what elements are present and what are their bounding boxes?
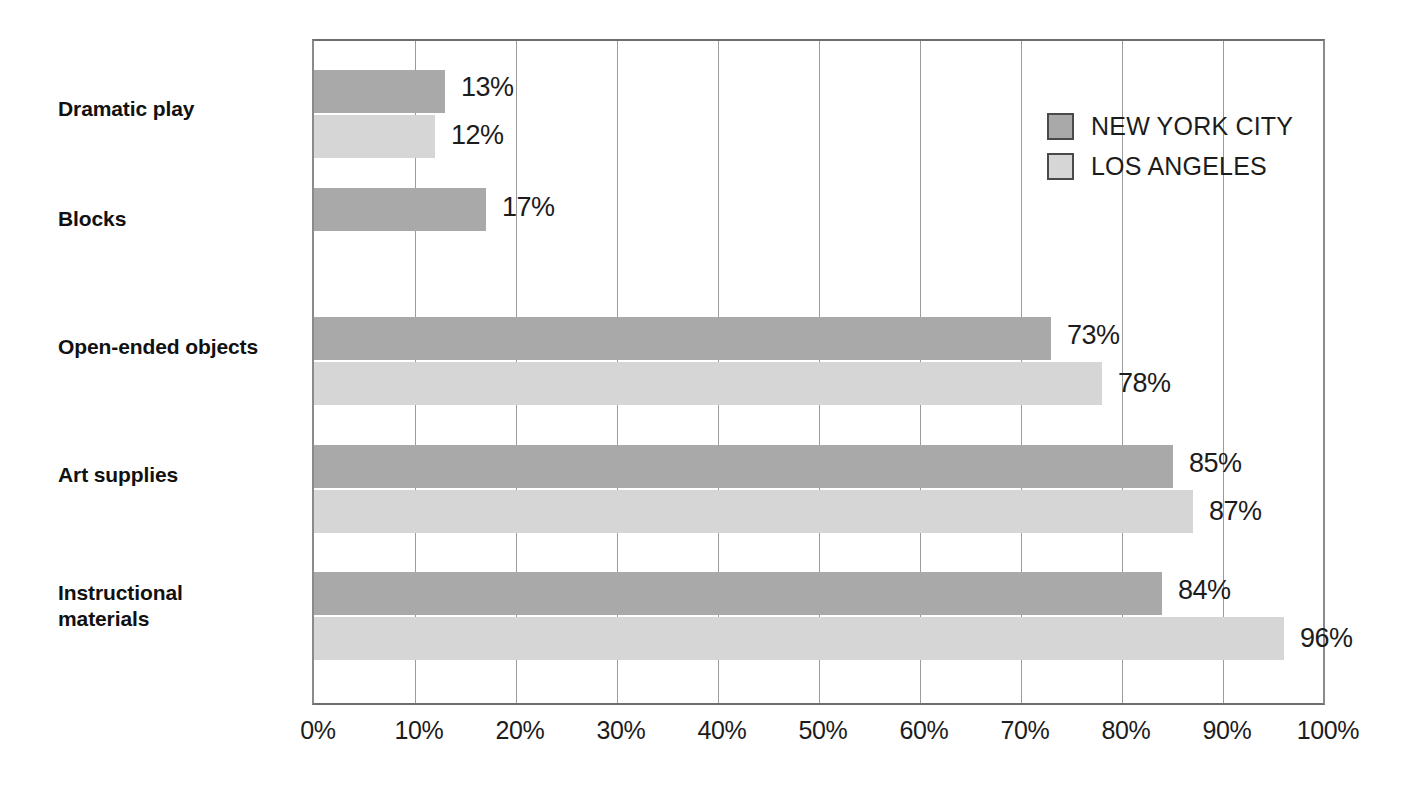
xtick-label-80: 80% <box>1102 716 1151 745</box>
xtick-label-20: 20% <box>496 716 545 745</box>
bar-dramatic-play-new-york-city <box>314 70 445 113</box>
category-label-line: Open-ended objects <box>58 334 308 360</box>
bar-chart: Dramatic play Blocks Open-ended objects … <box>0 0 1415 789</box>
category-label-open-ended-objects: Open-ended objects <box>58 334 308 360</box>
bar-art-supplies-los-angeles <box>314 490 1193 533</box>
xtick-label-50: 50% <box>799 716 848 745</box>
category-label-line: Instructional <box>58 580 308 606</box>
category-label-line: Dramatic play <box>58 96 308 122</box>
bar-open-ended-objects-new-york-city <box>314 317 1051 360</box>
legend-swatch-icon-new-york-city <box>1047 113 1074 140</box>
category-label-dramatic-play: Dramatic play <box>58 96 308 122</box>
legend-label-new-york-city: NEW YORK CITY <box>1091 112 1293 141</box>
bar-instructional-materials-los-angeles <box>314 617 1284 660</box>
xtick-label-10: 10% <box>395 716 444 745</box>
value-label-dramatic-play-los-angeles: 12% <box>451 120 504 151</box>
value-label-instructional-materials-new-york-city: 84% <box>1178 575 1231 606</box>
category-label-line: Art supplies <box>58 462 308 488</box>
xtick-label-90: 90% <box>1203 716 1252 745</box>
legend-swatch-icon-los-angeles <box>1047 153 1074 180</box>
value-label-instructional-materials-los-angeles: 96% <box>1300 623 1353 654</box>
xtick-label-100: 100% <box>1297 716 1359 745</box>
xtick-label-0: 0% <box>300 716 335 745</box>
xtick-label-70: 70% <box>1001 716 1050 745</box>
category-label-line: materials <box>58 606 308 632</box>
value-label-art-supplies-los-angeles: 87% <box>1209 496 1262 527</box>
value-label-open-ended-objects-new-york-city: 73% <box>1067 320 1120 351</box>
category-label-blocks: Blocks <box>58 206 308 232</box>
value-label-dramatic-play-new-york-city: 13% <box>461 72 514 103</box>
value-label-art-supplies-new-york-city: 85% <box>1189 448 1242 479</box>
xtick-label-30: 30% <box>597 716 646 745</box>
bar-instructional-materials-new-york-city <box>314 572 1162 615</box>
xtick-label-40: 40% <box>698 716 747 745</box>
bar-open-ended-objects-los-angeles <box>314 362 1102 405</box>
value-label-blocks-new-york-city: 17% <box>502 192 555 223</box>
bar-blocks-new-york-city <box>314 188 486 231</box>
legend: NEW YORK CITY LOS ANGELES <box>1047 106 1293 186</box>
value-label-open-ended-objects-los-angeles: 78% <box>1118 368 1171 399</box>
category-label-instructional-materials: Instructional materials <box>58 580 308 632</box>
xtick-label-60: 60% <box>900 716 949 745</box>
legend-item-los-angeles: LOS ANGELES <box>1047 146 1293 186</box>
bar-dramatic-play-los-angeles <box>314 115 435 158</box>
category-label-line: Blocks <box>58 206 308 232</box>
legend-item-new-york-city: NEW YORK CITY <box>1047 106 1293 146</box>
bar-art-supplies-new-york-city <box>314 445 1173 488</box>
category-label-art-supplies: Art supplies <box>58 462 308 488</box>
legend-label-los-angeles: LOS ANGELES <box>1091 152 1267 181</box>
